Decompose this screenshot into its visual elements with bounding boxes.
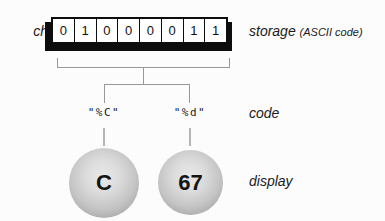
bit-cell: 0 [117, 19, 139, 42]
bit-cell: 0 [53, 19, 74, 42]
ascii-storage-diagram: ch 0 1 0 0 0 0 1 1 storage (ASCII code) … [0, 0, 385, 221]
variable-name-label: ch [16, 23, 48, 39]
format-code-decimal: "%d" [160, 106, 220, 119]
bit-cell: 1 [74, 19, 96, 42]
bit-cell: 0 [139, 19, 161, 42]
bit-box: 0 1 0 0 0 0 1 1 [51, 17, 228, 44]
display-ball-decimal: 67 [158, 150, 223, 215]
lower-bracket-line [104, 84, 190, 103]
bit-cell: 1 [183, 19, 205, 42]
storage-label-note: (ASCII code) [300, 26, 363, 38]
display-row-label: display [249, 173, 293, 189]
display-char-value: C [96, 170, 112, 196]
bit-cell: 1 [204, 19, 226, 42]
upper-bracket-line [57, 58, 230, 68]
display-ball-char: C [69, 148, 139, 218]
format-code-char: "%C" [74, 106, 134, 119]
storage-label: storage [249, 23, 296, 39]
bit-cell: 0 [96, 19, 118, 42]
storage-row-label: storage (ASCII code) [249, 23, 363, 39]
display-decimal-value: 67 [178, 170, 202, 196]
bracket-stem-line [143, 68, 144, 84]
code-row-label: code [249, 105, 279, 121]
connector-dash-right [189, 128, 191, 146]
connector-dash-left [103, 128, 105, 146]
bit-cell: 0 [161, 19, 183, 42]
